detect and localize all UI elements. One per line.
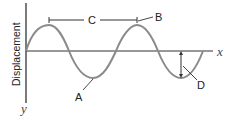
label-d: D [197, 79, 205, 91]
label-b-leader [138, 17, 153, 21]
wave-diagram: C B A D x y Displacement [0, 0, 237, 122]
displacement-label: Displacement [10, 22, 22, 86]
y-axis-label: y [19, 101, 27, 116]
label-a: A [75, 91, 83, 103]
x-axis-label: x [216, 44, 223, 59]
label-b: B [155, 11, 162, 23]
label-a-leader [83, 79, 93, 90]
label-c: C [88, 14, 96, 26]
amplitude-arrowhead-top [179, 51, 183, 55]
